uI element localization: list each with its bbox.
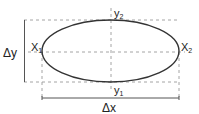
ellipse-diagram: y2 X1 X2 y1 Δy Δx [0, 0, 199, 114]
dimension-lines [25, 20, 180, 100]
label-x1: X1 [31, 41, 42, 54]
guide-lines [24, 8, 185, 100]
label-y1: y1 [114, 84, 124, 97]
label-x2: X2 [181, 41, 192, 54]
label-delta-x: Δx [102, 101, 116, 114]
label-y1-sub: 1 [120, 90, 124, 97]
label-y2: y2 [114, 7, 124, 20]
label-delta-y: Δy [3, 46, 17, 60]
label-x1-sub: 1 [38, 47, 42, 54]
ellipse-shape [42, 20, 179, 82]
label-x2-sub: 2 [188, 47, 192, 54]
label-y2-sub: 2 [120, 13, 124, 20]
